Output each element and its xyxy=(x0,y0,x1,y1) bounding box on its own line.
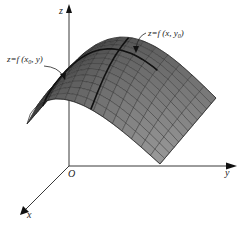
surface-patch xyxy=(27,37,216,164)
z-axis-arrow-icon xyxy=(66,4,72,13)
x-axis-label: x xyxy=(26,209,32,220)
trace-x0-leader xyxy=(44,66,63,76)
y-axis-label: y xyxy=(224,167,230,178)
trace-x0-label: z=f (x0, y) xyxy=(6,54,43,65)
x-axis xyxy=(24,166,69,211)
trace-y0-label: z=f (x, y0) xyxy=(147,28,184,39)
surface-cell xyxy=(27,104,38,124)
surface-diagram: z O x y z=f (x0, y) z=f (x, y0) xyxy=(0,0,250,232)
z-axis-label: z xyxy=(58,5,63,16)
origin-label: O xyxy=(68,168,75,179)
